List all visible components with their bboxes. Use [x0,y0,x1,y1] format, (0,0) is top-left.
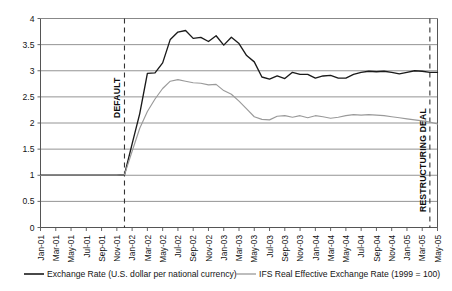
annotation-label: RESTRUCTURING DEAL [418,108,428,212]
x-tick-label: Mar-02 [143,235,153,262]
x-tick-label: May-01 [66,235,76,263]
y-tick-label: 3.5 [23,40,35,50]
x-tick-label: Jan-02 [127,235,137,261]
chart-legend: Exchange Rate (U.S. dollar per national … [24,269,440,279]
gridlines [41,19,438,228]
x-tick-label: Nov-01 [112,235,122,262]
chart-container: DEFAULTRESTRUCTURING DEAL Jan-01Mar-01Ma… [0,0,452,291]
y-tick-label: 1.5 [23,144,35,154]
x-axis-ticks [41,228,438,232]
x-tick-label: Sep-04 [372,235,382,262]
x-tick-label: Nov-03 [295,235,305,262]
series-line-0 [41,31,438,176]
x-tick-label: Sep-03 [280,235,290,262]
y-tick-labels: 00.511.522.533.54 [23,14,35,233]
x-tick-label: Sep-01 [97,235,107,262]
x-tick-label: May-05 [433,235,443,263]
x-tick-label: May-04 [341,235,351,263]
y-tick-label: 3 [30,66,35,76]
x-tick-label: Jan-04 [311,235,321,261]
x-tick-label: Mar-03 [234,235,244,262]
x-tick-label: Jul-03 [265,235,275,258]
x-tick-label: May-03 [249,235,259,263]
x-tick-label: Mar-01 [51,235,61,262]
x-tick-label: May-02 [158,235,168,263]
y-tick-label: 1 [30,170,35,180]
x-tick-label: Jul-04 [356,235,366,258]
x-tick-label: Jan-05 [402,235,412,261]
x-tick-labels: Jan-01Mar-01May-01Jul-01Sep-01Nov-01Jan-… [36,235,443,263]
y-tick-label: 2.5 [23,92,35,102]
annotation-label: DEFAULT [112,77,122,118]
series-line-1 [41,80,438,176]
legend-label-1: IFS Real Effective Exchange Rate (1999 =… [259,269,440,279]
y-tick-label: 0 [30,223,35,233]
y-tick-label: 4 [30,14,35,24]
y-tick-label: 2 [30,118,35,128]
line-chart: DEFAULTRESTRUCTURING DEAL Jan-01Mar-01Ma… [0,0,452,291]
y-tick-label: 0.5 [23,196,35,206]
legend-label-0: Exchange Rate (U.S. dollar per national … [47,269,237,279]
x-tick-label: Nov-04 [387,235,397,262]
x-tick-label: Mar-04 [326,235,336,262]
x-tick-label: Sep-02 [188,235,198,262]
x-tick-label: Nov-02 [204,235,214,262]
series-layer [41,31,438,176]
x-tick-label: Mar-05 [417,235,427,262]
x-tick-label: Jul-02 [173,235,183,258]
x-tick-label: Jul-01 [82,235,92,258]
x-tick-label: Jan-03 [219,235,229,261]
x-tick-label: Jan-01 [36,235,46,261]
